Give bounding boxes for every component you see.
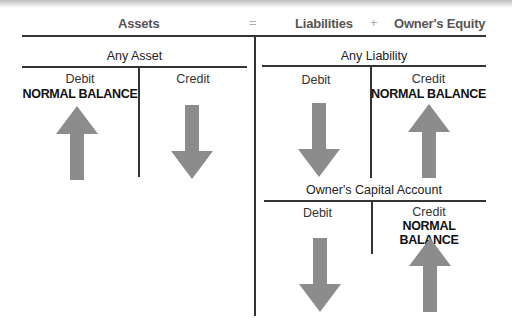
equation-divider: [254, 36, 256, 316]
liability-credit-label: Credit: [371, 72, 486, 86]
liability-debit-label: Debit: [262, 73, 370, 87]
plus-sign: +: [370, 15, 378, 30]
down-arrow-icon: [299, 238, 341, 312]
down-arrow-icon: [298, 103, 340, 177]
capital-debit-label: Debit: [264, 206, 371, 220]
up-arrow-icon: [409, 238, 451, 312]
capital-credit-label: Credit: [372, 205, 486, 219]
equity-heading: Owner's Equity: [394, 16, 485, 31]
assets-heading: Assets: [118, 16, 159, 31]
capital-t-top: [264, 200, 486, 202]
asset-normal-balance: NORMAL BALANCE: [22, 87, 138, 101]
asset-account-title: Any Asset: [22, 49, 247, 63]
liabilities-heading: Liabilities: [295, 16, 353, 31]
equals-sign: =: [249, 15, 257, 30]
asset-credit-label: Credit: [139, 72, 247, 86]
up-arrow-icon: [56, 106, 98, 180]
liability-normal-balance: NORMAL BALANCE: [371, 87, 486, 101]
down-arrow-icon: [171, 105, 213, 179]
asset-debit-label: Debit: [22, 72, 138, 86]
liability-t-top: [262, 65, 486, 67]
scan-shadow: [0, 0, 512, 8]
liability-account-title: Any Liability: [262, 49, 486, 63]
up-arrow-icon: [408, 104, 450, 178]
capital-account-title: Owner's Capital Account: [262, 183, 486, 197]
asset-t-top: [22, 66, 247, 68]
